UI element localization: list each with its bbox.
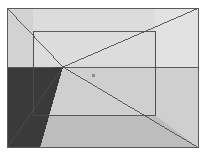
shadow-left-block (7, 68, 41, 115)
reference-marker-icon (92, 74, 95, 77)
ceiling-light-fill (33, 8, 155, 68)
figure-canvas (0, 0, 206, 156)
upper-right-wall-fill (155, 8, 199, 68)
perspective-diagram (0, 0, 206, 156)
